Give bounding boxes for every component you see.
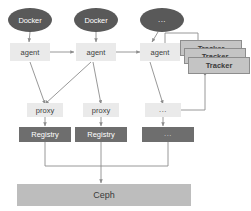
node-label: ... [164,129,172,138]
edge-docker3-agent3 [152,32,158,42]
node-docker-2[interactable]: Docker [74,8,118,32]
node-label: Docker [84,16,107,25]
node-label: proxy [36,106,54,115]
edge-docker1-agent1 [29,32,30,42]
edge-agent2-proxy1 [45,62,91,104]
node-agent-1[interactable]: agent [10,43,50,61]
node-label: Registry [87,130,115,139]
node-label: agent [151,48,170,57]
node-agent-2[interactable]: agent [76,43,116,61]
node-label: Tracker [206,61,233,70]
node-label: ... [159,105,167,114]
node-label: Registry [31,130,59,139]
node-docker-1[interactable]: Docker [8,8,52,32]
edge-agent1-proxy1 [30,62,45,104]
edge-agent2-proxy2 [93,62,101,104]
node-registry-1[interactable]: Registry [19,127,71,142]
node-label: agent [21,48,40,57]
node-docker-3[interactable]: ... [140,8,184,32]
node-label: Ceph [93,190,115,200]
architecture-diagram: Docker Docker ... agent agent agent Trac… [0,0,251,211]
node-label: ... [158,15,166,24]
node-label: agent [87,48,106,57]
node-registry-2[interactable]: Registry [75,127,127,142]
edge-registry-bus [45,142,168,166]
node-registry-3[interactable]: ... [142,127,194,142]
edge-agent3-proxy3 [150,62,163,104]
node-proxy-2[interactable]: proxy [83,103,119,117]
node-ceph-storage[interactable]: Ceph [17,184,191,206]
node-proxy-3[interactable]: ... [145,103,181,117]
node-tracker-front[interactable]: Tracker [188,57,250,74]
node-proxy-1[interactable]: proxy [27,103,63,117]
node-label: proxy [92,106,110,115]
node-agent-3[interactable]: agent [140,43,180,61]
node-label: Docker [18,16,41,25]
